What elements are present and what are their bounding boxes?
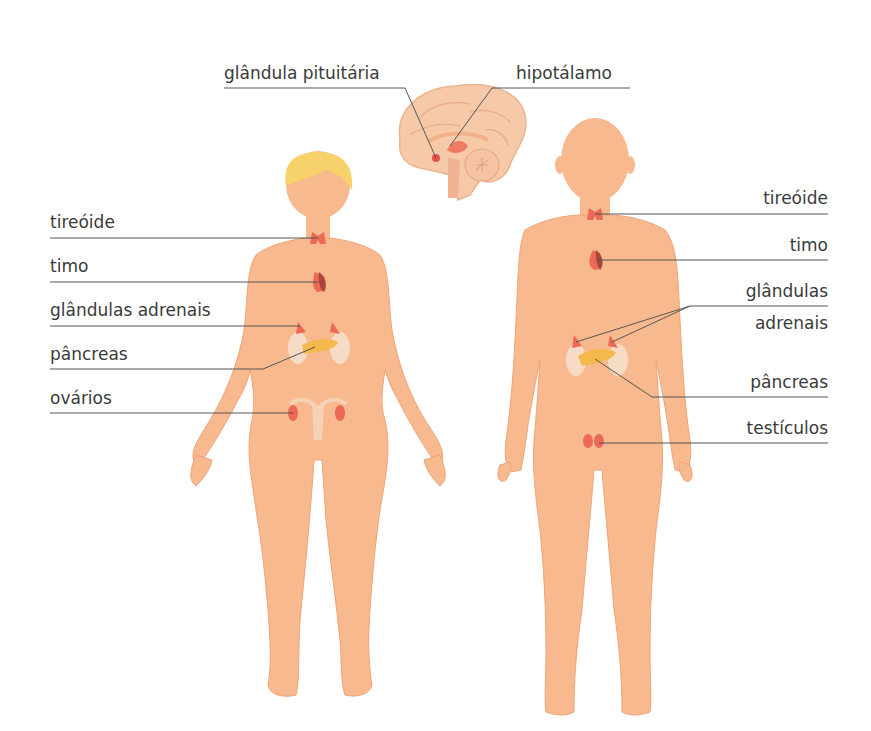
label-male-adrenals-line1: glândulas [746, 281, 828, 301]
label-pituitary: glândula pituitária [224, 63, 380, 83]
brain-illustration [399, 84, 526, 200]
female-ovary-right [335, 405, 345, 421]
label-female-adrenals: glândulas adrenais [50, 300, 211, 320]
label-male-thymus: timo [790, 235, 828, 255]
label-male-adrenals-line2: adrenais [755, 313, 828, 333]
anatomy-illustration [0, 0, 871, 731]
label-male-testes: testículos [747, 418, 828, 438]
label-male-thyroid: tireóide [763, 188, 828, 208]
female-body-illustration [191, 151, 446, 696]
label-female-ovaries: ovários [50, 388, 112, 408]
male-testis-left [583, 434, 593, 448]
male-testis-right [594, 434, 604, 448]
label-female-thyroid: tireóide [50, 212, 115, 232]
male-body-illustration [498, 118, 692, 715]
label-hypothalamus: hipotálamo [516, 63, 612, 83]
label-female-thymus: timo [50, 256, 88, 276]
endocrine-system-diagram: glândula pituitária hipotálamo tireóide … [0, 0, 871, 731]
label-male-pancreas: pâncreas [750, 372, 828, 392]
label-female-pancreas: pâncreas [50, 344, 128, 364]
